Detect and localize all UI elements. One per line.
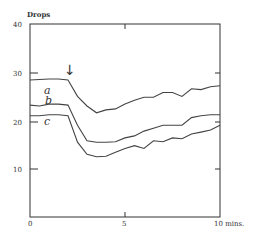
curve-a [30,79,220,113]
y-tick-40: 40 [13,21,22,29]
x-tick-5: 5 [122,220,126,228]
line-chart: Drops 40 30 20 10 0 5 10 mins. ↓ a b c [0,0,255,239]
curve-label-b: b [45,94,52,107]
curve-c [30,115,220,157]
y-axis-title: Drops [27,10,50,19]
y-tick-marks [30,24,220,217]
y-tick-30: 30 [13,70,22,78]
curve-label-c: c [44,115,50,128]
plot-frame [30,24,220,217]
arrow-down-icon: ↓ [64,62,76,78]
y-tick-10: 10 [13,166,22,174]
x-tick-0: 0 [28,220,32,228]
y-tick-20: 20 [13,119,22,127]
x-tick-10: 10 mins. [214,220,244,228]
curve-b [30,104,220,142]
